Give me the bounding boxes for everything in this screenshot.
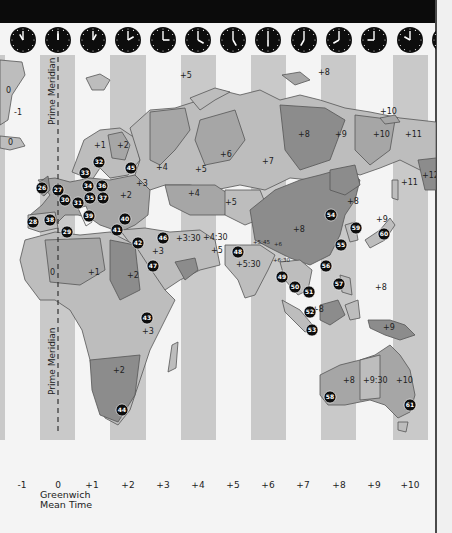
sakhalin xyxy=(392,180,398,200)
city-marker-60[interactable]: 60 xyxy=(378,228,390,240)
region-offset-label: +10 xyxy=(380,107,397,116)
city-marker-54[interactable]: 54 xyxy=(325,209,337,221)
city-marker-42[interactable]: 42 xyxy=(132,237,144,249)
city-marker-36[interactable]: 36 xyxy=(96,180,108,192)
city-marker-48[interactable]: 48 xyxy=(232,246,244,258)
region-offset-label: +4 xyxy=(188,189,200,198)
region-offset-label: +9 xyxy=(383,323,395,332)
city-marker-59[interactable]: 59 xyxy=(350,222,362,234)
city-marker-45[interactable]: 45 xyxy=(125,162,137,174)
city-marker-number: 61 xyxy=(406,401,414,408)
city-marker-34[interactable]: 34 xyxy=(82,180,94,192)
region-offset-label: +2 xyxy=(117,141,129,150)
city-marker-29[interactable]: 29 xyxy=(61,226,73,238)
city-marker-44[interactable]: 44 xyxy=(116,404,128,416)
city-marker-43[interactable]: 43 xyxy=(141,312,153,324)
city-marker-number: 49 xyxy=(278,273,286,280)
region-offset-label: +4 xyxy=(156,163,168,172)
zone-label: +3 xyxy=(156,480,169,490)
city-marker-61[interactable]: 61 xyxy=(404,399,416,411)
region-offset-label: +8 xyxy=(318,68,330,77)
clock-icon xyxy=(326,27,352,53)
zone-label: +5 xyxy=(226,480,239,490)
region-offset-label: 0 xyxy=(6,86,11,95)
city-marker-number: 54 xyxy=(327,211,335,218)
city-marker-number: 57 xyxy=(335,280,343,287)
region-offset-label: +8 xyxy=(293,225,305,234)
clock-icon xyxy=(361,27,387,53)
city-marker-number: 35 xyxy=(86,194,94,201)
region-offset-label: +1 xyxy=(88,268,100,277)
region-offset-label: +12 xyxy=(422,171,436,180)
city-marker-41[interactable]: 41 xyxy=(111,224,123,236)
zone-label: +10 xyxy=(401,480,420,490)
region-offset-label: 0 xyxy=(50,268,55,277)
city-marker-38[interactable]: 38 xyxy=(44,214,56,226)
city-marker-number: 50 xyxy=(291,283,299,290)
region-offset-label: +8 xyxy=(375,283,387,292)
region-offset-label: +9 xyxy=(376,215,388,224)
city-marker-number: 43 xyxy=(143,314,151,321)
city-marker-26[interactable]: 26 xyxy=(36,182,48,194)
region-offset-label: +3:30 xyxy=(176,234,201,243)
region-offset-label: +7 xyxy=(262,157,274,166)
region-offset-label: +3 xyxy=(152,247,164,256)
city-marker-number: 27 xyxy=(54,186,62,193)
region-offset-label: +5:45 xyxy=(253,239,270,245)
gmt-label-line2: Mean Time xyxy=(40,499,92,510)
region-offset-label: +6 xyxy=(220,150,232,159)
city-marker-number: 34 xyxy=(84,182,92,189)
city-marker-53[interactable]: 53 xyxy=(306,324,318,336)
zone-label: +7 xyxy=(296,480,309,490)
city-marker-52[interactable]: 52 xyxy=(304,306,316,318)
city-marker-number: 32 xyxy=(95,158,103,165)
zone-label: +2 xyxy=(121,480,134,490)
zone-label: -1 xyxy=(18,480,27,490)
city-marker-49[interactable]: 49 xyxy=(276,271,288,283)
city-marker-35[interactable]: 35 xyxy=(84,192,96,204)
region-offset-label: +8 xyxy=(343,376,355,385)
city-marker-31[interactable]: 31 xyxy=(72,197,84,209)
city-marker-55[interactable]: 55 xyxy=(335,239,347,251)
city-marker-46[interactable]: 46 xyxy=(157,232,169,244)
region-offset-label: +10 xyxy=(396,376,413,385)
city-marker-number: 46 xyxy=(159,234,167,241)
city-marker-32[interactable]: 32 xyxy=(93,156,105,168)
city-marker-27[interactable]: 27 xyxy=(52,184,64,196)
city-marker-30[interactable]: 30 xyxy=(59,194,71,206)
city-marker-number: 38 xyxy=(46,216,54,223)
city-marker-57[interactable]: 57 xyxy=(333,278,345,290)
city-marker-50[interactable]: 50 xyxy=(289,281,301,293)
city-marker-51[interactable]: 51 xyxy=(303,286,315,298)
clock-icon xyxy=(291,27,317,53)
page-margin xyxy=(437,0,452,533)
city-marker-33[interactable]: 33 xyxy=(79,167,91,179)
region-offset-label: +8 xyxy=(347,197,359,206)
clock-icon xyxy=(432,27,436,53)
city-marker-number: 48 xyxy=(234,248,242,255)
region-offset-label: +2 xyxy=(127,271,139,280)
region-offset-label: +6:30 xyxy=(273,257,290,263)
region-offset-label: +4:30 xyxy=(203,233,228,242)
region-offset-label: -1 xyxy=(14,108,22,117)
city-marker-37[interactable]: 37 xyxy=(97,192,109,204)
madagascar xyxy=(168,342,178,372)
city-marker-56[interactable]: 56 xyxy=(320,260,332,272)
zone-label: +4 xyxy=(191,480,205,490)
region-offset-label: +8 xyxy=(298,130,310,139)
city-marker-number: 39 xyxy=(85,212,93,219)
city-marker-number: 28 xyxy=(29,218,37,225)
city-marker-58[interactable]: 58 xyxy=(324,391,336,403)
clock-icon xyxy=(255,27,281,53)
clock-icon xyxy=(397,27,423,53)
map-canvas: Prime Meridian Prime Meridian 0-10+1+2+5… xyxy=(0,0,436,533)
region-offset-label: +9 xyxy=(335,130,347,139)
city-marker-40[interactable]: 40 xyxy=(119,213,131,225)
city-marker-number: 52 xyxy=(306,308,314,315)
city-marker-47[interactable]: 47 xyxy=(147,260,159,272)
region-offset-label: +3 xyxy=(142,327,154,336)
city-marker-39[interactable]: 39 xyxy=(83,210,95,222)
city-marker-28[interactable]: 28 xyxy=(27,216,39,228)
region-offset-label: +2 xyxy=(113,366,125,375)
city-marker-number: 37 xyxy=(99,194,107,201)
